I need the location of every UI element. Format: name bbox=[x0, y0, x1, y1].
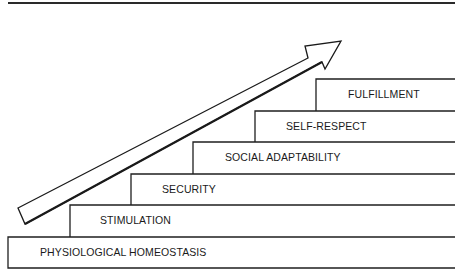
step-label-fulfillment: FULFILLMENT bbox=[348, 88, 420, 100]
staircase-diagram bbox=[0, 0, 463, 272]
step-label-self-respect: SELF-RESPECT bbox=[286, 120, 367, 132]
step-label-security: SECURITY bbox=[162, 183, 216, 195]
step-label-stimulation: STIMULATION bbox=[100, 214, 171, 226]
step-label-social-adaptability: SOCIAL ADAPTABILITY bbox=[225, 151, 341, 163]
step-label-physiological-homeostasis: PHYSIOLOGICAL HOMEOSTASIS bbox=[40, 246, 206, 258]
growth-arrow-icon bbox=[18, 41, 341, 224]
